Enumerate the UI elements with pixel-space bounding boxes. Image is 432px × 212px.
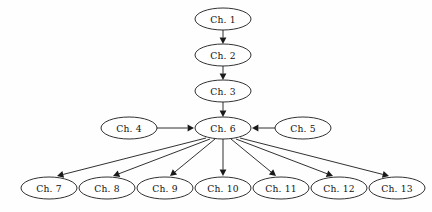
edge-line — [240, 138, 383, 174]
chapter-dependency-graph: Ch. 1Ch. 2Ch. 3Ch. 4Ch. 6Ch. 5Ch. 7Ch. 8… — [0, 0, 432, 212]
node-label: Ch. 5 — [290, 123, 316, 134]
edge-ch1-to-ch2 — [220, 30, 227, 44]
graph-node-ch1[interactable]: Ch. 1 — [195, 8, 251, 30]
arrowhead-icon — [252, 125, 258, 132]
node-label: Ch. 8 — [94, 183, 120, 194]
arrowhead-icon — [220, 170, 227, 176]
arrowhead-icon — [220, 38, 227, 44]
graph-node-ch8[interactable]: Ch. 8 — [79, 177, 135, 199]
edge-ch4-to-ch6 — [157, 125, 194, 132]
arrowhead-icon — [269, 169, 276, 176]
graph-node-ch5[interactable]: Ch. 5 — [275, 117, 331, 139]
graph-node-ch12[interactable]: Ch. 12 — [311, 177, 367, 199]
edge-ch6-to-ch9 — [170, 139, 215, 176]
graph-node-ch9[interactable]: Ch. 9 — [137, 177, 193, 199]
edge-ch6-to-ch7 — [57, 138, 206, 178]
node-label: Ch. 3 — [210, 86, 236, 97]
edge-ch6-to-ch13 — [240, 138, 389, 178]
edge-line — [63, 138, 206, 174]
edge-ch6-to-ch11 — [231, 139, 276, 176]
node-label: Ch. 12 — [323, 183, 355, 194]
node-label: Ch. 6 — [210, 123, 236, 134]
node-label: Ch. 13 — [381, 183, 413, 194]
node-label: Ch. 7 — [36, 183, 62, 194]
arrowhead-icon — [382, 171, 389, 178]
arrowhead-icon — [170, 169, 177, 176]
node-label: Ch. 9 — [152, 183, 178, 194]
node-label: Ch. 10 — [207, 183, 239, 194]
graph-node-ch3[interactable]: Ch. 3 — [195, 80, 251, 102]
graph-node-ch4[interactable]: Ch. 4 — [101, 117, 157, 139]
node-label: Ch. 1 — [210, 14, 236, 25]
graph-node-ch7[interactable]: Ch. 7 — [21, 177, 77, 199]
arrowhead-icon — [57, 171, 64, 178]
diagram-canvas: Ch. 1Ch. 2Ch. 3Ch. 4Ch. 6Ch. 5Ch. 7Ch. 8… — [0, 0, 432, 212]
graph-node-ch11[interactable]: Ch. 11 — [253, 177, 309, 199]
arrowhead-icon — [220, 74, 227, 80]
node-label: Ch. 4 — [116, 123, 142, 134]
graph-node-ch6[interactable]: Ch. 6 — [195, 117, 251, 139]
node-label: Ch. 11 — [265, 183, 297, 194]
edge-ch6-to-ch10 — [220, 139, 227, 176]
graph-node-ch10[interactable]: Ch. 10 — [195, 177, 251, 199]
graph-node-ch2[interactable]: Ch. 2 — [195, 44, 251, 66]
arrowhead-icon — [188, 125, 194, 132]
edge-ch3-to-ch6 — [220, 102, 227, 117]
graph-node-ch13[interactable]: Ch. 13 — [369, 177, 425, 199]
arrowhead-icon — [220, 111, 227, 117]
edge-ch2-to-ch3 — [220, 66, 227, 80]
node-label: Ch. 2 — [210, 50, 236, 61]
edge-ch5-to-ch6 — [252, 125, 275, 132]
